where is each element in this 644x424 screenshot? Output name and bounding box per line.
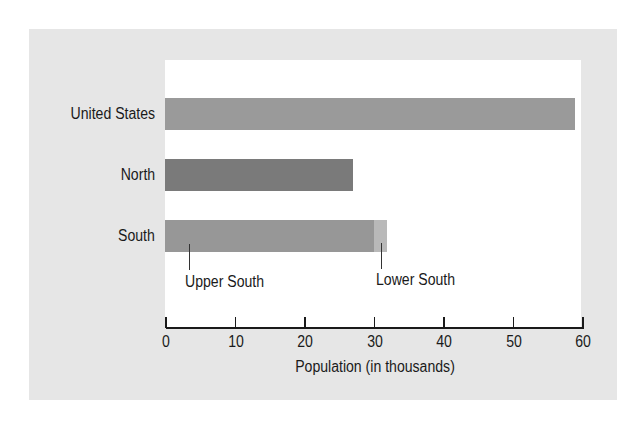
x-tick-label: 10 <box>218 333 253 351</box>
bar-north <box>165 159 353 191</box>
bar-united-states <box>165 98 575 130</box>
x-tick <box>443 317 445 328</box>
x-axis-title: Population (in thousands) <box>252 358 498 376</box>
category-label-north: North <box>121 159 155 191</box>
leader-line-lower-south <box>381 243 382 269</box>
x-tick-label: 20 <box>287 333 322 351</box>
x-tick-label: 0 <box>148 333 183 351</box>
category-label-south: South <box>118 220 155 252</box>
x-tick-label: 30 <box>357 333 392 351</box>
x-tick-label: 50 <box>496 333 531 351</box>
category-label-united-states: United States <box>70 98 155 130</box>
bar-south-upper <box>165 220 374 252</box>
x-tick <box>165 317 167 328</box>
x-tick <box>374 317 376 328</box>
x-tick-label: 60 <box>565 333 600 351</box>
annotation-lower-south: Lower South <box>376 271 455 289</box>
x-tick-label: 40 <box>426 333 461 351</box>
x-tick <box>304 317 306 328</box>
leader-line-upper-south <box>189 244 190 270</box>
x-tick <box>582 317 584 328</box>
x-tick <box>235 317 237 328</box>
x-tick <box>513 317 515 328</box>
annotation-upper-south: Upper South <box>185 273 264 291</box>
